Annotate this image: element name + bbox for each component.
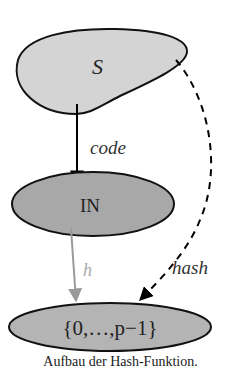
figure-caption: Aufbau der Hash-Funktion. xyxy=(0,354,241,370)
node-N-label: IN xyxy=(80,195,100,216)
edge-h-label: h xyxy=(83,260,92,280)
edge-hash-label: hash xyxy=(172,257,208,278)
edge-code-label: code xyxy=(90,137,126,158)
node-range-label: {0,…,p−1} xyxy=(62,316,157,340)
hash-function-diagram: S code IN h hash {0,…,p−1} xyxy=(0,0,241,381)
node-S-label: S xyxy=(92,54,103,79)
edge-h xyxy=(71,228,76,301)
